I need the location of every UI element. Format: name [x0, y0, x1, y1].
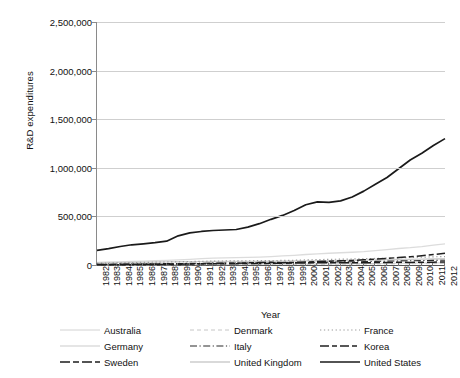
- legend-line-swatch-icon: [60, 357, 100, 367]
- x-axis-tick-labels: 1982198319841985198619871988198919901991…: [96, 266, 445, 308]
- legend-line-swatch-icon: [60, 325, 100, 335]
- x-tick-label: 2007: [391, 266, 402, 306]
- legend-item-germany[interactable]: Germany: [60, 338, 190, 354]
- legend-label: Italy: [234, 341, 251, 352]
- legend-line-swatch-icon: [190, 357, 230, 367]
- x-tick-label: 1983: [112, 266, 123, 306]
- x-tick-label: 1985: [135, 266, 146, 306]
- x-tick-mark: [154, 263, 155, 266]
- legend-item-denmark[interactable]: Denmark: [190, 322, 320, 338]
- x-tick-label: 2000: [309, 266, 320, 306]
- x-tick-mark: [293, 263, 294, 266]
- legend-label: Germany: [104, 341, 143, 352]
- y-tick-label: 2,000,000: [16, 65, 92, 76]
- x-tick-label: 1992: [217, 266, 228, 306]
- legend-line-swatch-icon: [190, 325, 230, 335]
- x-tick-mark: [398, 263, 399, 266]
- y-axis-tick-labels: 2,500,0002,000,0001,500,0001,000,000500,…: [8, 22, 92, 265]
- gridline: [97, 119, 445, 120]
- x-tick-mark: [270, 263, 271, 266]
- y-tick-label: 0: [16, 260, 92, 271]
- legend-item-france[interactable]: France: [320, 322, 450, 338]
- legend-label: Denmark: [234, 325, 273, 336]
- x-tick-label: 1988: [170, 266, 181, 306]
- x-tick-mark: [224, 263, 225, 266]
- x-tick-mark: [177, 263, 178, 266]
- legend-line-swatch-icon: [320, 325, 360, 335]
- series-lines: [97, 22, 445, 265]
- x-tick-label: 1986: [147, 266, 158, 306]
- x-tick-label: 1996: [263, 266, 274, 306]
- x-tick-label: 2010: [425, 266, 436, 306]
- x-tick-label: 1984: [124, 266, 135, 306]
- x-tick-mark: [247, 263, 248, 266]
- legend-item-sweden[interactable]: Sweden: [60, 354, 190, 370]
- x-tick-mark: [328, 263, 329, 266]
- x-tick-label: 1990: [193, 266, 204, 306]
- x-tick-mark: [258, 263, 259, 266]
- legend-line-swatch-icon: [320, 341, 360, 351]
- y-tick-label: 500,000: [16, 211, 92, 222]
- x-tick-label: 1997: [275, 266, 286, 306]
- x-tick-mark: [432, 263, 433, 266]
- legend-item-united-states[interactable]: United States: [320, 354, 450, 370]
- x-tick-mark: [351, 263, 352, 266]
- x-tick-mark: [316, 263, 317, 266]
- x-tick-mark: [374, 263, 375, 266]
- x-tick-label: 2004: [356, 266, 367, 306]
- legend-item-korea[interactable]: Korea: [320, 338, 450, 354]
- y-tick-mark: [92, 216, 97, 217]
- gridline: [97, 216, 445, 217]
- x-tick-label: 1994: [240, 266, 251, 306]
- x-tick-mark: [386, 263, 387, 266]
- x-tick-label: 1991: [205, 266, 216, 306]
- legend-label: Sweden: [104, 357, 138, 368]
- x-tick-label: 1993: [228, 266, 239, 306]
- x-tick-mark: [444, 263, 445, 266]
- x-tick-mark: [119, 263, 120, 266]
- x-tick-mark: [409, 263, 410, 266]
- x-tick-label: 2012: [449, 266, 460, 306]
- legend-line-swatch-icon: [320, 357, 360, 367]
- legend-item-united-kingdom[interactable]: United Kingdom: [190, 354, 320, 370]
- x-tick-mark: [189, 263, 190, 266]
- x-tick-mark: [340, 263, 341, 266]
- x-tick-label: 2011: [437, 266, 448, 306]
- gridline: [97, 22, 445, 23]
- x-tick-label: 1995: [251, 266, 262, 306]
- y-tick-label: 1,000,000: [16, 162, 92, 173]
- y-tick-mark: [92, 22, 97, 23]
- x-tick-mark: [131, 263, 132, 266]
- x-tick-label: 2005: [367, 266, 378, 306]
- legend-label: United States: [364, 357, 421, 368]
- x-tick-label: 2003: [344, 266, 355, 306]
- x-tick-label: 1998: [286, 266, 297, 306]
- legend-label: France: [364, 325, 394, 336]
- legend-line-swatch-icon: [60, 341, 100, 351]
- x-tick-mark: [363, 263, 364, 266]
- x-tick-label: 1982: [101, 266, 112, 306]
- x-tick-mark: [142, 263, 143, 266]
- legend-item-australia[interactable]: Australia: [60, 322, 190, 338]
- x-tick-label: 1987: [159, 266, 170, 306]
- y-tick-label: 2,500,000: [16, 17, 92, 28]
- x-tick-label: 2008: [402, 266, 413, 306]
- x-tick-mark: [305, 263, 306, 266]
- x-tick-mark: [166, 263, 167, 266]
- x-tick-mark: [235, 263, 236, 266]
- x-tick-mark: [108, 263, 109, 266]
- x-tick-mark: [212, 263, 213, 266]
- x-tick-label: 2002: [333, 266, 344, 306]
- y-tick-mark: [92, 265, 97, 266]
- legend-item-italy[interactable]: Italy: [190, 338, 320, 354]
- x-tick-label: 1999: [298, 266, 309, 306]
- x-tick-mark: [282, 263, 283, 266]
- gridline: [97, 168, 445, 169]
- x-tick-label: 1989: [182, 266, 193, 306]
- plot-area: [97, 22, 445, 265]
- chart-legend: AustraliaDenmarkFranceGermanyItalyKoreaS…: [60, 322, 450, 370]
- y-tick-label: 1,500,000: [16, 114, 92, 125]
- y-tick-mark: [92, 71, 97, 72]
- x-tick-mark: [421, 263, 422, 266]
